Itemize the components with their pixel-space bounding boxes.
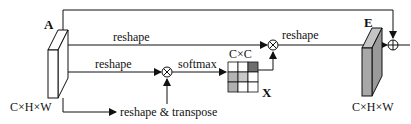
matrix-cell: [238, 62, 248, 72]
matrix-cell: [248, 82, 258, 92]
matrix-cell: [228, 72, 238, 82]
matrix-shape: C×C: [229, 48, 252, 60]
input-shape: C×H×W: [10, 101, 52, 113]
matrix-cell: [228, 62, 238, 72]
matrix-cell: [238, 82, 248, 92]
reshape-mid-label: reshape: [95, 58, 132, 70]
reshape-transpose-label: reshape & transpose: [120, 106, 217, 118]
softmax-label: softmax: [178, 58, 217, 70]
matrix-cell: [228, 82, 238, 92]
input-label: A: [44, 18, 53, 31]
reshape-out-label: reshape: [282, 29, 319, 41]
attention-matrix-x: [228, 62, 258, 92]
reshape-top-label: reshape: [113, 31, 150, 43]
reshape-transpose-arrow: [63, 98, 116, 112]
matrix-to-matmul-arrow: [258, 52, 273, 70]
add-op: [388, 40, 398, 50]
input-tensor-a: [48, 30, 68, 98]
matrix-label: X: [262, 86, 271, 99]
output-tensor-e: [362, 28, 382, 96]
matrix-cell: [248, 72, 258, 82]
matmul-op-2: [268, 40, 278, 50]
matrix-cell: [238, 72, 248, 82]
matmul-op-1: [162, 67, 172, 77]
output-label: E: [364, 16, 373, 29]
output-shape: C×H×W: [352, 101, 394, 113]
matrix-cell: [248, 62, 258, 72]
